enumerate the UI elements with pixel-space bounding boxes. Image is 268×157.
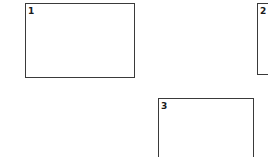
numbered-box-2: 2	[257, 3, 268, 75]
numbered-box-3: 3	[158, 98, 254, 157]
numbered-box-1: 1	[25, 3, 135, 78]
box-number-label: 3	[161, 101, 167, 111]
box-number-label: 2	[260, 6, 266, 16]
box-number-label: 1	[28, 6, 34, 16]
